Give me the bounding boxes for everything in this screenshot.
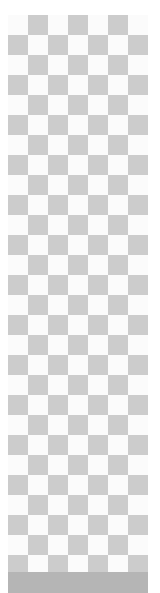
transparency-checkerboard — [8, 15, 148, 572]
bottom-bar — [8, 572, 148, 593]
